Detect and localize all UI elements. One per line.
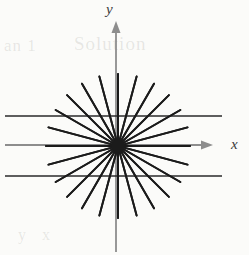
y-axis-arrowhead [112,21,121,33]
y-axis-label: y [106,2,113,17]
figure-canvas: an 1 Solution y x y x [0,0,249,255]
x-axis-label: x [231,137,238,152]
starburst-plot [0,0,249,255]
origin-dot [111,139,125,153]
